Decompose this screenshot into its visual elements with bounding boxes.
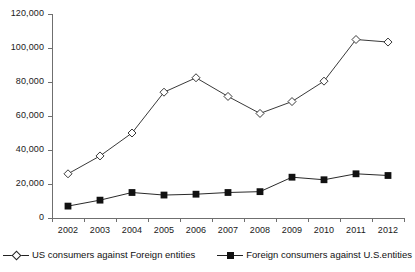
series-line-0 — [68, 40, 388, 174]
legend-key-open-diamond-icon — [3, 250, 29, 260]
open-diamond-marker — [192, 74, 200, 82]
open-diamond-marker — [224, 92, 232, 100]
open-diamond-marker — [384, 38, 392, 46]
filled-square-icon — [227, 252, 234, 259]
open-diamond-marker — [160, 88, 168, 96]
open-diamond-marker — [128, 129, 136, 137]
open-diamond-icon — [11, 250, 21, 260]
open-diamond-marker — [288, 98, 296, 106]
filled-square-marker — [129, 189, 136, 196]
legend-label-foreign-consumers: Foreign consumers against U.S.entities — [246, 249, 412, 261]
filled-square-marker — [193, 191, 200, 198]
filled-square-marker — [257, 188, 264, 195]
filled-square-marker — [353, 170, 360, 177]
filled-square-marker — [161, 192, 168, 199]
filled-square-marker — [97, 197, 104, 204]
filled-square-marker — [289, 174, 296, 181]
open-diamond-marker — [256, 109, 264, 117]
legend-item-us-consumers: US consumers against Foreign entities — [3, 249, 195, 261]
filled-square-marker — [321, 176, 328, 183]
open-diamond-marker — [352, 36, 360, 44]
open-diamond-marker — [320, 77, 328, 85]
filled-square-marker — [385, 172, 392, 179]
filled-square-marker — [65, 203, 72, 210]
chart-legend: US consumers against Foreign entities Fo… — [0, 244, 415, 266]
legend-label-us-consumers: US consumers against Foreign entities — [32, 249, 195, 261]
filled-square-marker — [225, 189, 232, 196]
series-layer — [0, 0, 415, 272]
legend-item-foreign-consumers: Foreign consumers against U.S.entities — [217, 249, 412, 261]
open-diamond-marker — [64, 170, 72, 178]
line-chart: 020,00040,00060,00080,000100,000120,000 … — [0, 0, 415, 272]
legend-key-filled-square-icon — [217, 250, 243, 260]
open-diamond-marker — [96, 152, 104, 160]
